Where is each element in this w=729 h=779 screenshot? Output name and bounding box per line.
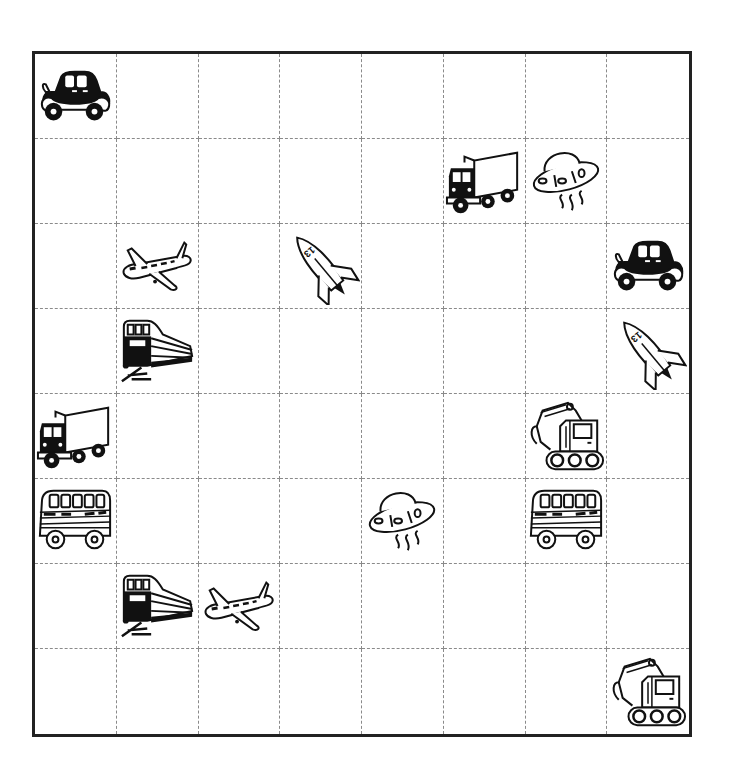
grid-cell-r0-c4[interactable] (362, 54, 444, 139)
grid-cell-r0-c2[interactable] (199, 54, 281, 139)
grid-cell-r6-c2[interactable] (199, 564, 281, 649)
grid-cell-r0-c3[interactable] (280, 54, 362, 139)
grid-cell-r3-c7[interactable]: 13 (607, 309, 689, 394)
grid-cell-r3-c1[interactable] (117, 309, 199, 394)
grid-cell-r2-c7[interactable] (607, 224, 689, 309)
grid-cell-r5-c2[interactable] (199, 479, 281, 564)
grid-cell-r5-c4[interactable] (362, 479, 444, 564)
grid-cell-r5-c7[interactable] (607, 479, 689, 564)
grid-cell-r1-c7[interactable] (607, 139, 689, 224)
car-icon (609, 227, 687, 305)
grid-cell-r0-c6[interactable] (526, 54, 608, 139)
grid-cell-r4-c2[interactable] (199, 394, 281, 479)
grid-cell-r5-c0[interactable] (35, 479, 117, 564)
grid-cell-r1-c5[interactable] (444, 139, 526, 224)
grid-cell-r1-c0[interactable] (35, 139, 117, 224)
grid-cell-r3-c6[interactable] (526, 309, 608, 394)
grid-cell-r2-c4[interactable] (362, 224, 444, 309)
grid-cell-r2-c2[interactable] (199, 224, 281, 309)
grid-cell-r3-c2[interactable] (199, 309, 281, 394)
truck-icon (36, 397, 114, 475)
grid-cell-r2-c6[interactable] (526, 224, 608, 309)
grid-cell-r7-c2[interactable] (199, 649, 281, 734)
bus-icon (36, 482, 114, 560)
grid-cell-r7-c7[interactable] (607, 649, 689, 734)
grid-cell-r7-c4[interactable] (362, 649, 444, 734)
excavator-icon (609, 653, 687, 731)
grid-cell-r1-c1[interactable] (117, 139, 199, 224)
grid-cell-r7-c6[interactable] (526, 649, 608, 734)
truck-icon (445, 142, 523, 220)
rocket-icon: 13 (282, 227, 360, 305)
grid-cell-r4-c0[interactable] (35, 394, 117, 479)
grid-cell-r2-c1[interactable] (117, 224, 199, 309)
rocket-icon: 13 (609, 312, 687, 390)
grid-cell-r1-c6[interactable] (526, 139, 608, 224)
grid-cell-r2-c0[interactable] (35, 224, 117, 309)
grid-cell-r7-c1[interactable] (117, 649, 199, 734)
grid-cell-r5-c3[interactable] (280, 479, 362, 564)
airplane-icon (118, 227, 196, 305)
grid-cell-r0-c0[interactable] (35, 54, 117, 139)
train-icon (118, 312, 196, 390)
grid-cell-r3-c4[interactable] (362, 309, 444, 394)
ufo-icon (527, 142, 605, 220)
grid-cell-r5-c6[interactable] (526, 479, 608, 564)
grid-cell-r6-c5[interactable] (444, 564, 526, 649)
grid-cell-r4-c6[interactable] (526, 394, 608, 479)
grid-cell-r6-c6[interactable] (526, 564, 608, 649)
grid-cell-r6-c4[interactable] (362, 564, 444, 649)
grid-cell-r0-c1[interactable] (117, 54, 199, 139)
grid-cell-r4-c1[interactable] (117, 394, 199, 479)
grid-cell-r4-c7[interactable] (607, 394, 689, 479)
grid-cell-r6-c7[interactable] (607, 564, 689, 649)
excavator-icon (527, 397, 605, 475)
grid-cell-r5-c1[interactable] (117, 479, 199, 564)
train-icon (118, 567, 196, 645)
airplane-icon (200, 567, 278, 645)
car-icon (36, 57, 114, 135)
grid-cell-r1-c4[interactable] (362, 139, 444, 224)
grid-cell-r1-c2[interactable] (199, 139, 281, 224)
grid-cell-r3-c0[interactable] (35, 309, 117, 394)
grid-cell-r6-c0[interactable] (35, 564, 117, 649)
grid-cell-r2-c3[interactable]: 13 (280, 224, 362, 309)
grid-cell-r4-c3[interactable] (280, 394, 362, 479)
grid-cell-r4-c4[interactable] (362, 394, 444, 479)
grid-cell-r6-c3[interactable] (280, 564, 362, 649)
vehicle-grid-board: 13 13 (32, 51, 692, 737)
grid-cell-r7-c0[interactable] (35, 649, 117, 734)
grid-cell-r6-c1[interactable] (117, 564, 199, 649)
grid-cell-r0-c7[interactable] (607, 54, 689, 139)
grid-cell-r4-c5[interactable] (444, 394, 526, 479)
grid-cell-r0-c5[interactable] (444, 54, 526, 139)
grid-cell-r5-c5[interactable] (444, 479, 526, 564)
grid-cell-r3-c3[interactable] (280, 309, 362, 394)
grid-cell-r7-c3[interactable] (280, 649, 362, 734)
grid-cell-r7-c5[interactable] (444, 649, 526, 734)
bus-icon (527, 482, 605, 560)
ufo-icon (363, 482, 441, 560)
grid-cell-r3-c5[interactable] (444, 309, 526, 394)
grid-cell-r2-c5[interactable] (444, 224, 526, 309)
grid-cell-r1-c3[interactable] (280, 139, 362, 224)
grid: 13 13 (35, 54, 689, 734)
